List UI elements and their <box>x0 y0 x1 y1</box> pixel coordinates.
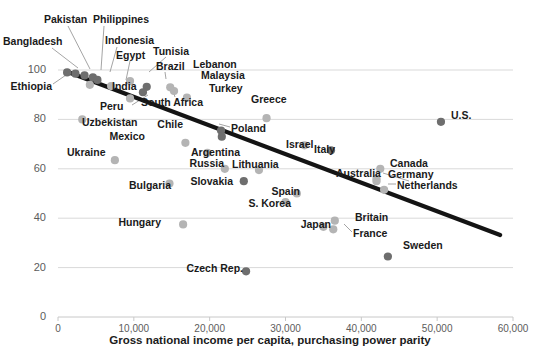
point-label-russia: Russia <box>190 158 224 169</box>
y-tick-label-80: 80 <box>16 112 46 124</box>
x-tick-label-60000: 60,000 <box>483 323 540 334</box>
point-label-spain: Spain <box>271 186 300 197</box>
data-point-u-s-[interactable] <box>437 118 445 126</box>
leader-line-ethiopia <box>53 75 66 84</box>
leader-line-brazil <box>165 72 166 79</box>
point-label-ukraine: Ukraine <box>67 147 106 158</box>
data-point-ukraine[interactable] <box>111 156 119 164</box>
x-tick-label-10000: 10,000 <box>104 323 164 334</box>
leader-line-france <box>344 224 352 232</box>
x-tick-marks <box>58 317 513 321</box>
point-label-greece: Greece <box>251 94 287 105</box>
data-point-peru[interactable] <box>126 94 134 102</box>
point-label-australia: Australia <box>336 168 381 179</box>
point-label-pakistan: Pakistan <box>44 14 87 25</box>
point-label-hungary: Hungary <box>118 217 161 228</box>
leader-line-philippines <box>101 26 104 70</box>
point-label-s-korea: S. Korea <box>248 198 291 209</box>
x-tick-label-50000: 50,000 <box>407 323 467 334</box>
point-label-japan: Japan <box>301 219 331 230</box>
point-label-south-africa: South Africa <box>141 97 203 108</box>
leader-line-bangladesh <box>52 48 78 68</box>
point-label-britain: Britain <box>355 212 388 223</box>
point-label-bulgaria: Bulgaria <box>129 180 171 191</box>
point-label-sweden: Sweden <box>403 240 443 251</box>
y-tick-label-20: 20 <box>16 261 46 273</box>
point-label-ethiopia: Ethiopia <box>11 81 52 92</box>
point-label-italy: Italy <box>314 144 335 155</box>
point-label-israel: Israel <box>286 139 313 150</box>
point-label-chile: Chile <box>157 119 183 130</box>
x-tick-label-30000: 30,000 <box>256 323 316 334</box>
point-label-tunisia: Tunisia <box>153 46 189 57</box>
data-point-pakistan[interactable] <box>80 71 88 79</box>
point-label-bangladesh: Bangladesh <box>3 36 63 47</box>
data-point-britain[interactable] <box>331 217 339 225</box>
point-label-slovakia: Slovakia <box>190 176 233 187</box>
data-point-ethiopia[interactable] <box>63 68 71 76</box>
x-tick-label-0: 0 <box>28 323 88 334</box>
point-label-lithuania: Lithuania <box>232 159 279 170</box>
point-label-france: France <box>353 228 387 239</box>
point-label-malaysia: Malaysia <box>201 70 245 81</box>
point-label-turkey: Turkey <box>209 83 243 94</box>
x-tick-label-40000: 40,000 <box>331 323 391 334</box>
point-label-uzbekistan: Uzbekistan <box>82 117 137 128</box>
data-point-indonesia[interactable] <box>93 76 101 84</box>
point-label-philippines: Philippines <box>93 14 149 25</box>
data-point-hungary[interactable] <box>179 220 187 228</box>
point-label-mexico: Mexico <box>109 131 145 142</box>
y-tick-label-40: 40 <box>16 211 46 223</box>
y-tick-label-60: 60 <box>16 162 46 174</box>
data-point-netherlands[interactable] <box>380 186 388 194</box>
point-label-poland: Poland <box>231 123 266 134</box>
point-label-india: India <box>112 81 137 92</box>
x-tick-label-20000: 20,000 <box>180 323 240 334</box>
y-tick-label-100: 100 <box>16 63 46 75</box>
x-axis-title: Gross national income per capita, purcha… <box>0 334 540 346</box>
scatter-chart: 020406080100 010,00020,00030,00040,00050… <box>0 0 540 362</box>
data-point-slovakia[interactable] <box>240 177 248 185</box>
data-point-mexico[interactable] <box>181 139 189 147</box>
y-tick-label-0: 0 <box>16 310 46 322</box>
point-label-brazil: Brazil <box>156 61 185 72</box>
plot-canvas <box>0 0 540 362</box>
data-point-bangladesh[interactable] <box>71 70 79 78</box>
data-point-sweden[interactable] <box>384 252 392 260</box>
point-label-peru: Peru <box>100 101 123 112</box>
data-point-malaysia[interactable] <box>170 87 178 95</box>
data-point-poland[interactable] <box>218 133 226 141</box>
point-label-czech-rep-: Czech Rep. <box>186 263 243 274</box>
point-label-netherlands: Netherlands <box>397 180 458 191</box>
point-label-u-s-: U.S. <box>451 110 471 121</box>
data-point-india[interactable] <box>86 81 94 89</box>
point-label-indonesia: Indonesia <box>105 35 154 46</box>
point-label-egypt: Egypt <box>116 50 145 61</box>
